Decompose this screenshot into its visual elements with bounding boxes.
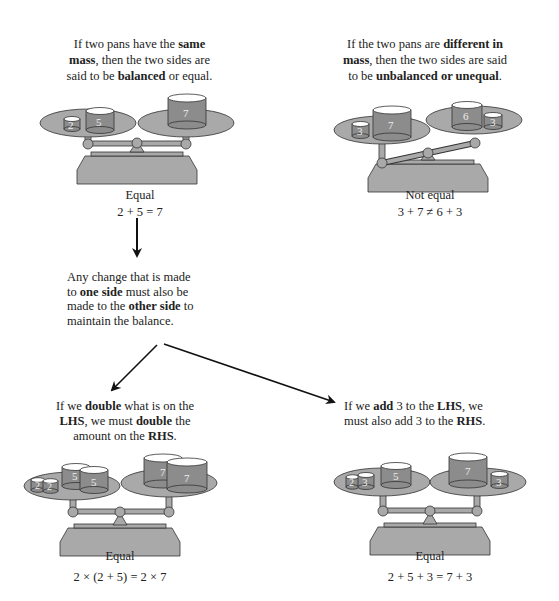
weight-label: 3 bbox=[362, 476, 368, 488]
weight-label: 5 bbox=[96, 116, 102, 128]
weight-label: 5 bbox=[72, 470, 78, 482]
weight-label: 3 bbox=[496, 476, 502, 488]
caption-add: If we add 3 to the LHS, we must also add… bbox=[344, 399, 534, 429]
weight-label: 2 bbox=[47, 481, 52, 492]
equation: 3 + 7 ≠ 6 + 3 bbox=[360, 205, 500, 220]
weight-label: 3 bbox=[357, 125, 363, 137]
status-equal: Equal bbox=[90, 188, 190, 203]
status-not-equal: Not equal bbox=[370, 188, 490, 203]
weight-label: 2 bbox=[68, 119, 74, 131]
weight-label: 5 bbox=[91, 476, 97, 488]
weight-label: 3 bbox=[490, 116, 496, 128]
weight-label: 7 bbox=[183, 107, 189, 119]
weight-label: 7 bbox=[388, 119, 394, 131]
weight-label: 7 bbox=[160, 466, 166, 478]
weight-label: 7 bbox=[184, 472, 190, 484]
equation: 2 × (2 + 5) = 2 × 7 bbox=[45, 570, 195, 585]
weight-label: 7 bbox=[465, 465, 471, 477]
equation: 2 + 5 = 7 bbox=[80, 205, 200, 220]
caption-double: If we double what is on the LHS, we must… bbox=[40, 399, 210, 444]
weight-label: 6 bbox=[463, 110, 469, 122]
status-equal: Equal bbox=[70, 549, 170, 564]
equation: 2 + 5 + 3 = 7 + 3 bbox=[360, 570, 500, 585]
weight-label: 2 bbox=[35, 480, 40, 491]
caption-same-mass: If two pans have the same mass, then the… bbox=[52, 36, 227, 84]
caption-different-mass: If the two pans are different in mass, t… bbox=[325, 36, 525, 84]
weight-label: 5 bbox=[393, 470, 399, 482]
weight-label: 2 bbox=[349, 477, 354, 488]
caption-change-both-sides: Any change that is made to one side must… bbox=[67, 270, 237, 328]
status-equal: Equal bbox=[380, 549, 480, 564]
